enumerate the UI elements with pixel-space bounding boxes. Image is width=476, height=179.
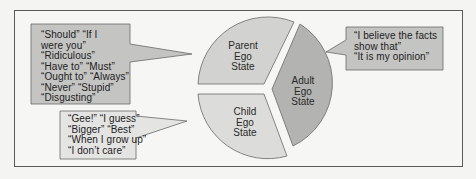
adult-label-line: State bbox=[273, 97, 333, 108]
parent-label-line: State bbox=[213, 62, 273, 73]
child-segment-label: Child Ego State bbox=[215, 107, 275, 139]
adult-callout-text: “I believe the facts show that” “It is m… bbox=[354, 31, 437, 63]
parent-segment-label: Parent Ego State bbox=[213, 41, 273, 73]
child-label-line: Child bbox=[215, 107, 275, 118]
parent-callout-text: “Should” “If I were you” “Ridiculous” “H… bbox=[41, 30, 129, 104]
adult-segment-label: Adult Ego State bbox=[273, 76, 333, 108]
parent-label-line: Parent bbox=[213, 41, 273, 52]
child-label-line: State bbox=[215, 128, 275, 139]
adult-label-line: Adult bbox=[273, 76, 333, 87]
child-callout-text: “Gee!” “I guess” “Bigger” “Best” “When I… bbox=[68, 114, 146, 156]
